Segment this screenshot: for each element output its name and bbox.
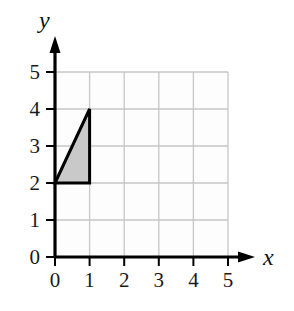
x-tick-label-4: 4 <box>188 270 199 291</box>
x-tick-label-1: 1 <box>84 270 95 291</box>
x-axis-arrowhead <box>238 252 255 263</box>
x-axis-label: x <box>263 245 274 269</box>
x-tick-label-2: 2 <box>119 270 130 291</box>
x-tick-label-0: 0 <box>50 270 61 291</box>
y-tick-label-0: 0 <box>30 247 41 268</box>
y-tick-label-5: 5 <box>30 62 41 83</box>
y-axis-arrowhead <box>50 36 61 53</box>
y-tick-label-1: 1 <box>30 210 41 231</box>
x-tick-label-5: 5 <box>223 270 234 291</box>
y-tick-label-4: 4 <box>30 99 41 120</box>
y-tick-label-2: 2 <box>30 173 41 194</box>
coordinate-plane-figure: 0 1 2 3 4 5 0 1 2 3 4 5 y x <box>0 0 294 311</box>
plot-canvas <box>0 0 294 311</box>
x-tick-label-3: 3 <box>154 270 165 291</box>
y-axis-label: y <box>39 8 50 32</box>
y-tick-label-3: 3 <box>30 136 41 157</box>
